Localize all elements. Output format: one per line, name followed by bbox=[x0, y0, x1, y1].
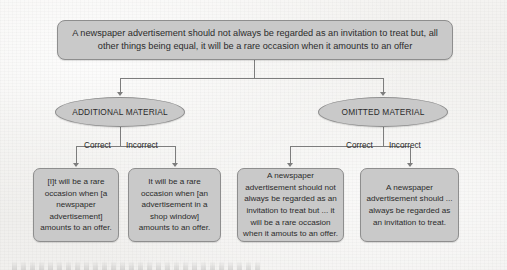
edge-label-omitted-incorrect: Incorrect bbox=[387, 141, 423, 150]
leaf-box-additional-correct: [I]t will be a rare occasion when [a new… bbox=[33, 168, 119, 242]
edge-label-additional-incorrect: Incorrect bbox=[124, 141, 160, 150]
leaf-box-additional-incorrect: It will be a rare occasion when [an adve… bbox=[128, 168, 221, 242]
leaf-box-omitted-correct: A newspaper advertisement should not alw… bbox=[237, 168, 344, 242]
connector-to-additional bbox=[120, 78, 121, 93]
connector-split-bar bbox=[120, 78, 383, 79]
arrowhead-additional-correct bbox=[73, 163, 79, 167]
arrowhead-additional-incorrect bbox=[172, 163, 178, 167]
arrowhead-omitted-incorrect bbox=[407, 163, 413, 167]
connector-additional-incorrect-drop bbox=[175, 146, 176, 164]
arrowhead-omitted-correct bbox=[287, 163, 293, 167]
arrowhead-to-additional bbox=[117, 92, 123, 96]
connector-omitted-correct-drop bbox=[290, 146, 291, 164]
flowchart-figure: A newspaper advertisement should not alw… bbox=[0, 0, 507, 270]
clipped-caption-strip bbox=[12, 261, 262, 270]
root-statement-box: A newspaper advertisement should not alw… bbox=[57, 20, 453, 60]
edge-label-omitted-correct: Correct bbox=[344, 141, 375, 150]
connector-to-omitted bbox=[383, 78, 384, 93]
connector-omitted-stem bbox=[383, 127, 384, 146]
connector-root-stem bbox=[254, 60, 255, 78]
edge-label-additional-correct: Correct bbox=[82, 141, 113, 150]
branch-node-omitted-material: OMITTED MATERIAL bbox=[318, 97, 448, 127]
branch-node-additional-material: ADDITIONAL MATERIAL bbox=[55, 97, 185, 127]
connector-additional-correct-drop bbox=[76, 146, 77, 164]
arrowhead-to-omitted bbox=[380, 92, 386, 96]
leaf-box-omitted-incorrect: A newspaper advertisement should ... alw… bbox=[360, 168, 459, 242]
connector-additional-stem bbox=[120, 127, 121, 146]
